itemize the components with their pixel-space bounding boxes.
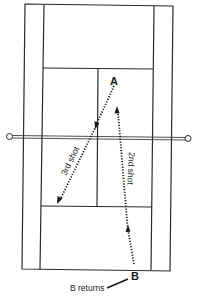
- player-b-label: B: [131, 270, 139, 282]
- second-shot-label: 2nd shot: [125, 152, 137, 186]
- player-a-label: A: [110, 75, 118, 87]
- second-shot-arrowhead: [115, 106, 120, 114]
- third-shot-upper-segment: [97, 86, 114, 123]
- net-line-top: [12, 136, 186, 138]
- center-service-line: [97, 69, 98, 207]
- left-singles-sideline: [40, 5, 44, 270]
- second-shot-lower-segment: [128, 230, 134, 264]
- net-post-left: [7, 134, 13, 140]
- net-post-right: [185, 136, 191, 142]
- tennis-court-diagram: A B 3rd shot 2nd shot B returns: [0, 0, 199, 299]
- net-line-bottom: [12, 138, 186, 140]
- right-singles-sideline: [151, 6, 154, 271]
- second-shot-path: [115, 106, 135, 264]
- b-returns-callout: B returns: [70, 283, 105, 293]
- third-shot-path: [57, 86, 114, 204]
- third-shot-label: 3rd shot: [59, 144, 82, 177]
- net: [7, 134, 192, 142]
- callout-leader-line: [107, 279, 128, 288]
